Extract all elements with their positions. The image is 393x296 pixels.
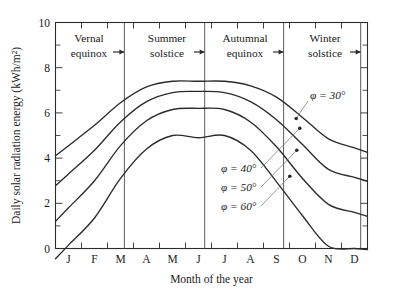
x-tick-label-jan: J xyxy=(66,253,71,265)
y-tick-label-4: 4 xyxy=(44,152,50,164)
x-tick-label-mar: M xyxy=(115,253,125,265)
winter-solstice-label-line2: solstice xyxy=(308,47,342,59)
x-tick-label-dec: D xyxy=(350,253,358,265)
leader-dot-phi-60 xyxy=(288,174,292,178)
vernal-equinox-label-line2: equinox xyxy=(71,47,108,59)
y-axis-title: Daily solar radiation energy (kWh/m²) xyxy=(10,47,23,224)
vernal-equinox-label-line1: Vernal xyxy=(74,32,103,44)
chart-figure: 0 2 4 6 8 10 Daily solar radiation energ… xyxy=(0,0,393,296)
x-tick-label-nov: N xyxy=(324,253,333,265)
autumnal-equinox-label-line1: Autumnal xyxy=(222,32,267,44)
solar-radiation-line-chart: 0 2 4 6 8 10 Daily solar radiation energ… xyxy=(0,0,393,296)
x-tick-label-jun: J xyxy=(196,253,201,265)
autumnal-equinox-arrowhead xyxy=(279,50,284,55)
autumnal-equinox-label-line2: equinox xyxy=(227,47,264,59)
series-label-phi-60: φ = 60° xyxy=(221,200,257,212)
x-tick-label-aug: A xyxy=(246,253,255,265)
data-curves xyxy=(56,81,368,259)
curve-phi-60 xyxy=(56,135,368,259)
curve-phi-50 xyxy=(56,108,368,221)
series-label-phi-50: φ = 50° xyxy=(221,181,257,193)
y-tick-label-6: 6 xyxy=(44,107,50,119)
summer-solstice-label-line2: solstice xyxy=(150,47,184,59)
leader-dot-phi-40 xyxy=(298,126,302,130)
x-axis: J F M A M J J A S O N D Month of the yea… xyxy=(66,23,358,287)
x-tick-label-jul: J xyxy=(222,253,227,265)
summer-solstice-arrowhead xyxy=(200,50,205,55)
x-tick-label-sep: S xyxy=(273,253,279,265)
series-label-phi-40: φ = 40° xyxy=(221,162,257,174)
leader-phi-30 xyxy=(297,101,309,118)
y-tick-label-10: 10 xyxy=(39,17,51,29)
x-axis-title: Month of the year xyxy=(170,273,253,286)
season-annotations: Vernal equinox Summer solstice Autumnal … xyxy=(71,32,361,59)
x-tick-label-feb: F xyxy=(91,253,97,265)
summer-solstice-label-line1: Summer xyxy=(148,32,187,44)
leader-dot-phi-50 xyxy=(295,148,299,152)
x-tick-label-oct: O xyxy=(298,253,306,265)
leader-phi-40 xyxy=(261,129,300,169)
y-tick-label-2: 2 xyxy=(44,197,50,209)
winter-solstice-arrowhead xyxy=(356,50,361,55)
y-tick-label-8: 8 xyxy=(44,62,50,74)
leader-dot-phi-30 xyxy=(294,117,298,121)
vernal-equinox-arrowhead xyxy=(119,50,124,55)
x-tick-label-may: M xyxy=(167,253,177,265)
x-tick-label-apr: A xyxy=(142,253,151,265)
series-label-phi-30: φ = 30° xyxy=(310,89,346,101)
winter-solstice-label-line1: Winter xyxy=(310,32,341,44)
curve-phi-40 xyxy=(56,91,368,185)
y-tick-label-0: 0 xyxy=(44,243,50,255)
